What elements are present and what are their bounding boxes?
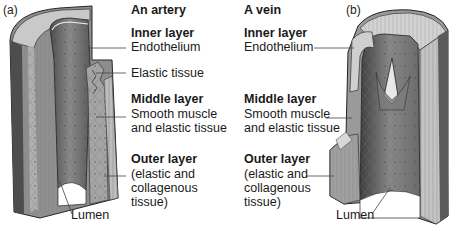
artery-illustration [10,6,118,218]
artery-panel-tag: (a) [3,3,18,17]
vein-lumen-label: Lumen [336,208,374,223]
artery-outer-layer-heading: Outer layer [131,152,197,166]
vein-middle-layer-line1: Smooth muscle [244,107,330,122]
vessel-illustrations [0,0,452,230]
vein-outer-layer-line3: tissue) [244,195,281,210]
vein-middle-layer-heading: Middle layer [244,92,316,106]
artery-endothelium-label: Endothelium [131,40,201,55]
vein-panel-tag: (b) [346,3,361,17]
vein-middle-layer-line2: and elastic tissue [244,121,340,136]
vein-illustration [330,10,448,224]
artery-middle-layer-line1: Smooth muscle [131,107,217,122]
artery-inner-layer-heading: Inner layer [131,26,194,40]
vein-outer-layer-heading: Outer layer [244,152,310,166]
artery-elastic-tissue-label: Elastic tissue [131,66,204,81]
artery-middle-layer-heading: Middle layer [131,92,203,106]
artery-outer-layer-line2: collagenous [131,181,198,196]
artery-lumen-label: Lumen [71,208,109,223]
vein-inner-layer-heading: Inner layer [244,26,307,40]
artery-outer-layer-line1: (elastic and [131,167,195,182]
vein-title: A vein [244,3,281,17]
vein-outer-layer-line2: collagenous [244,181,311,196]
vein-outer-layer-line1: (elastic and [244,167,308,182]
artery-middle-layer-line2: and elastic tissue [131,121,227,136]
vein-endothelium-label: Endothelium [244,40,314,55]
artery-title: An artery [131,3,186,17]
artery-outer-layer-line3: tissue) [131,195,168,210]
